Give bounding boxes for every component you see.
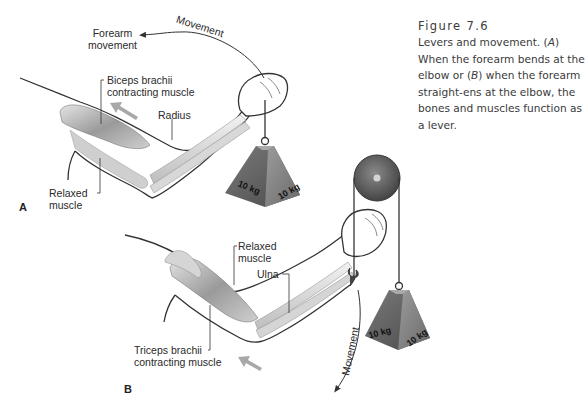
- label-relaxed-b-line2: muscle: [238, 252, 277, 264]
- label-relaxed-a-line2: muscle: [49, 199, 88, 211]
- label-biceps-line1: Biceps brachii: [107, 74, 195, 86]
- caption-part: Levers and movement. (: [418, 36, 548, 48]
- movement-label-a: Movement: [175, 13, 225, 40]
- panel-letter-a: A: [19, 201, 27, 213]
- movement-label-b: Movement: [339, 326, 361, 377]
- label-triceps: Triceps brachii contracting muscle: [134, 344, 222, 368]
- label-forearm-line1: Forearm: [88, 27, 137, 39]
- label-ulna: Ulna: [257, 268, 279, 280]
- movement-arc-a: [142, 32, 264, 78]
- label-relaxed-a: Relaxed muscle: [49, 187, 88, 211]
- caption-text: Levers and movement. (A) When the forear…: [418, 34, 587, 133]
- label-biceps: Biceps brachii contracting muscle: [107, 74, 195, 98]
- figure-caption: Figure 7.6 Levers and movement. (A) When…: [418, 18, 587, 133]
- caption-panel-ref-a: A: [548, 36, 555, 48]
- label-triceps-line1: Triceps brachii: [134, 344, 222, 356]
- label-relaxed-b-line1: Relaxed: [238, 240, 277, 252]
- label-radius: Radius: [158, 109, 191, 121]
- figure-number: Figure 7.6: [418, 18, 587, 34]
- label-relaxed-a-line1: Relaxed: [49, 187, 88, 199]
- label-forearm-movement: Forearm movement: [88, 27, 137, 51]
- label-relaxed-b: Relaxed muscle: [238, 240, 277, 264]
- label-biceps-line2: contracting muscle: [107, 86, 195, 98]
- label-triceps-line2: contracting muscle: [134, 356, 222, 368]
- panel-letter-b: B: [124, 383, 132, 395]
- label-forearm-line2: movement: [88, 39, 137, 51]
